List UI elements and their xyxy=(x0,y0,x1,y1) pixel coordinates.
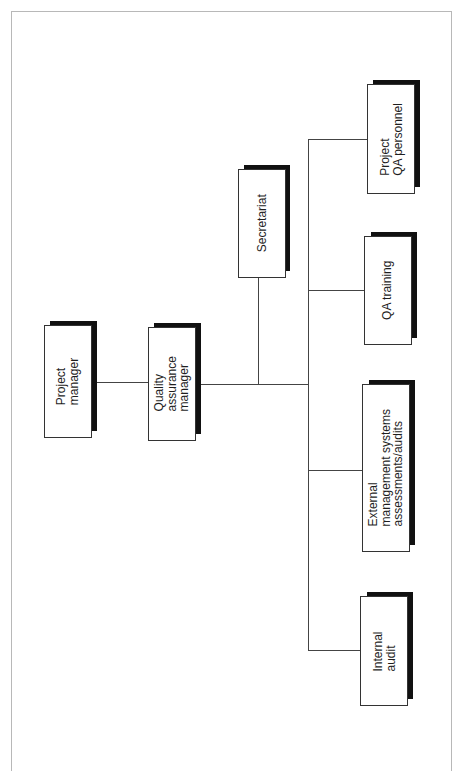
connector-internal-audit xyxy=(308,650,360,651)
box: Secretariat xyxy=(238,169,286,278)
connector-external-assessments xyxy=(308,470,362,471)
node-label: External management systems assessments/… xyxy=(367,409,405,526)
connector-qa-training xyxy=(308,290,364,291)
box: Quality assurance manager xyxy=(148,327,196,441)
connector-secretariat xyxy=(258,278,259,384)
box: Project QA personnel xyxy=(367,84,415,194)
node-label: Quality assurance manager xyxy=(153,356,191,411)
node-label: Project QA personnel xyxy=(379,103,404,176)
connector-pm-qam xyxy=(92,382,148,383)
node-label: Project manager xyxy=(56,358,81,405)
box: QA training xyxy=(364,236,412,345)
node-label: Secretariat xyxy=(256,194,269,252)
box: Project manager xyxy=(44,325,92,438)
connector-trunk xyxy=(308,139,309,651)
node-label: QA training xyxy=(382,261,395,320)
connector-qam-trunk xyxy=(196,384,309,385)
box: Internal audit xyxy=(360,596,408,706)
box: External management systems assessments/… xyxy=(362,384,410,552)
connector-project-qa-personnel xyxy=(308,139,367,140)
node-label: Internal audit xyxy=(372,631,397,671)
